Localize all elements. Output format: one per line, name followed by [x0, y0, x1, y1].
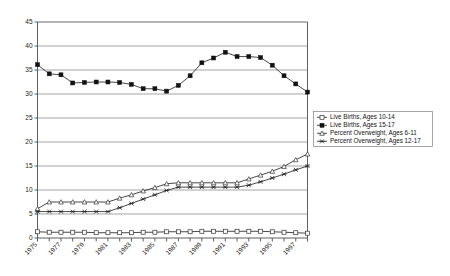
legend-label: Percent Overweight, Ages 12-17	[330, 137, 421, 145]
y-tick-label: 5	[29, 210, 33, 217]
data-point-marker-open-square	[36, 230, 40, 234]
data-point-marker-x-cross	[188, 185, 193, 189]
data-point-marker-open-square	[212, 229, 216, 233]
legend-item-3[interactable]: Percent Overweight, Ages 6-11	[317, 129, 417, 137]
data-point-marker-open-square	[247, 229, 251, 233]
y-tick-label: 25	[25, 114, 33, 121]
data-point-marker-filled-square	[82, 80, 86, 84]
data-point-marker-filled-square	[106, 80, 110, 84]
data-point-marker-filled-square	[176, 83, 180, 87]
data-point-marker-x-cross	[270, 176, 275, 180]
legend-label: Percent Overweight, Ages 6-11	[330, 129, 417, 137]
chart-legend: Live Births, Ages 10-14Live Births, Ages…	[314, 112, 433, 147]
data-point-marker-filled-square	[223, 50, 227, 54]
y-tick-label: 0	[29, 234, 33, 241]
y-tick-label: 35	[25, 66, 33, 73]
data-point-marker-x-cross	[281, 172, 286, 176]
data-point-marker-x-cross	[293, 168, 298, 172]
line-chart: 051015202530354045 197519771979198119831…	[0, 0, 450, 276]
data-point-marker-open-square	[129, 231, 133, 235]
y-tick-label: 20	[25, 138, 33, 145]
chart-container: 051015202530354045 197519771979198119831…	[0, 0, 450, 276]
data-point-marker-x-cross	[58, 210, 63, 214]
data-point-marker-x-cross	[176, 185, 181, 189]
data-point-marker-open-triangle	[293, 157, 298, 161]
data-point-marker-open-square	[200, 229, 204, 233]
series-group	[35, 50, 310, 235]
gridlines-group	[38, 22, 308, 238]
data-point-marker-open-square	[235, 229, 239, 233]
data-point-marker-open-square	[223, 229, 227, 233]
data-point-marker-filled-square	[270, 63, 274, 67]
data-point-marker-filled-square	[153, 87, 157, 91]
data-point-marker-x-cross	[117, 206, 122, 210]
data-point-marker-filled-square	[129, 82, 133, 86]
data-point-marker-x-cross	[129, 201, 134, 205]
data-point-marker-x-cross	[164, 188, 169, 192]
data-point-marker-open-square	[165, 230, 169, 234]
x-tick-label: 1997	[281, 240, 296, 255]
y-axis-ticks-group: 051015202530354045	[25, 18, 37, 241]
data-point-marker-open-square	[294, 231, 298, 235]
data-point-marker-open-square	[259, 229, 263, 233]
x-tick-label: 1983	[117, 240, 132, 255]
data-point-marker-open-triangle	[270, 169, 275, 173]
data-point-marker-open-square	[270, 230, 274, 234]
data-point-marker-open-square	[94, 231, 98, 235]
data-point-marker-filled-square	[320, 123, 324, 127]
data-point-marker-open-square	[82, 230, 86, 234]
data-point-marker-filled-square	[71, 81, 75, 85]
data-point-marker-x-cross	[82, 210, 87, 214]
x-tick-label: 1975	[23, 240, 38, 255]
data-point-marker-filled-square	[118, 80, 122, 84]
x-tick-label: 1981	[93, 240, 108, 255]
data-point-marker-x-cross	[141, 197, 146, 201]
data-point-marker-filled-square	[165, 89, 169, 93]
data-point-marker-open-square	[141, 230, 145, 234]
data-point-marker-open-square	[188, 230, 192, 234]
x-tick-label: 1995	[258, 240, 273, 255]
y-tick-label: 30	[25, 90, 33, 97]
data-point-marker-x-cross	[47, 210, 52, 214]
data-point-marker-x-cross	[94, 210, 99, 214]
data-point-marker-open-square	[306, 231, 310, 235]
y-tick-label: 45	[25, 18, 33, 25]
data-point-marker-filled-square	[247, 55, 251, 59]
data-point-marker-open-square	[47, 230, 51, 234]
data-point-marker-filled-square	[294, 82, 298, 86]
data-point-marker-filled-square	[47, 72, 51, 76]
data-point-marker-open-triangle	[305, 152, 310, 156]
data-point-marker-open-square	[176, 230, 180, 234]
legend-item-4[interactable]: Percent Overweight, Ages 12-17	[317, 137, 421, 145]
data-point-marker-x-cross	[70, 210, 75, 214]
data-point-marker-open-square	[71, 230, 75, 234]
data-point-marker-x-cross	[105, 210, 110, 214]
y-tick-label: 10	[25, 186, 33, 193]
series-line	[38, 231, 308, 233]
legend-label: Live Births, Ages 10-14	[330, 113, 395, 121]
series-1	[36, 229, 310, 235]
data-point-marker-x-cross	[223, 185, 228, 189]
x-tick-label: 1991	[211, 240, 226, 255]
data-point-marker-filled-square	[259, 56, 263, 60]
series-line	[38, 52, 308, 92]
data-point-marker-filled-square	[235, 55, 239, 59]
y-tick-label: 40	[25, 42, 33, 49]
x-tick-label: 1989	[187, 240, 202, 255]
series-3	[35, 152, 310, 211]
data-point-marker-x-cross	[246, 183, 251, 187]
data-point-marker-x-cross	[234, 185, 239, 189]
series-4	[35, 164, 310, 214]
data-point-marker-x-cross	[152, 193, 157, 197]
data-point-marker-filled-square	[59, 73, 63, 77]
x-tick-label: 1987	[164, 240, 179, 255]
data-point-marker-x-cross	[258, 180, 263, 184]
data-point-marker-filled-square	[94, 80, 98, 84]
data-point-marker-open-square	[106, 231, 110, 235]
data-point-marker-open-square	[153, 230, 157, 234]
data-point-marker-filled-square	[141, 87, 145, 91]
data-point-marker-open-square	[59, 230, 63, 234]
data-point-marker-filled-square	[306, 90, 310, 94]
data-point-marker-filled-square	[200, 61, 204, 65]
data-point-marker-filled-square	[188, 74, 192, 78]
